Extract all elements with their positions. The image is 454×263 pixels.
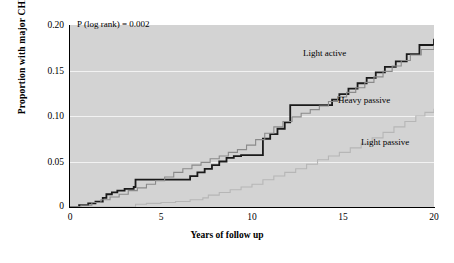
y-tick-0: 0 xyxy=(30,201,64,211)
p-value-annotation: P (log rank) = 0.002 xyxy=(77,19,149,29)
curve-label-light-active: Light active xyxy=(303,48,346,58)
x-tick-0: 0 xyxy=(55,211,85,223)
y-tick-0.20: 0.20 xyxy=(30,20,64,30)
x-tick-20: 20 xyxy=(419,211,449,223)
x-tick-5: 5 xyxy=(146,211,176,223)
curve-label-light-passive: Light passive xyxy=(361,137,409,147)
curve-heavy-passive xyxy=(70,45,434,207)
y-axis-line xyxy=(69,25,70,208)
curve-light-active xyxy=(70,39,434,207)
chart-figure: 0.20 0.15 0.10 0.05 0 Proportion with ma… xyxy=(0,0,454,263)
x-tick-labels: 0 5 10 15 20 xyxy=(0,211,454,227)
curve-label-heavy-passive: Heavy passive xyxy=(338,95,390,105)
y-tick-0.15: 0.15 xyxy=(30,66,64,76)
curve-light-passive xyxy=(70,109,434,207)
x-tick-15: 15 xyxy=(328,211,358,223)
x-tick-10: 10 xyxy=(237,211,267,223)
survival-curves xyxy=(70,25,434,207)
y-tick-0.10: 0.10 xyxy=(30,111,64,121)
x-axis-title: Years of follow up xyxy=(0,230,454,240)
y-tick-0.05: 0.05 xyxy=(30,157,64,167)
x-axis-line xyxy=(69,207,435,208)
y-axis-title: Proportion with major CHD xyxy=(17,0,27,139)
plot-area xyxy=(70,25,434,207)
